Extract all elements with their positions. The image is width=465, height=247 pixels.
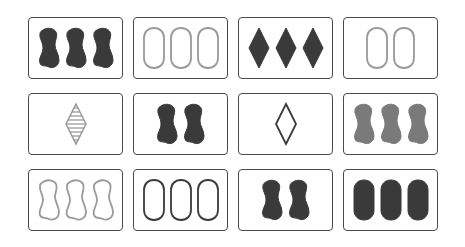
squiggle-icon — [408, 104, 427, 143]
card-symbols — [247, 26, 325, 70]
oval-icon — [171, 28, 191, 68]
card-symbols — [274, 102, 298, 146]
set-card[interactable] — [28, 17, 123, 79]
diamond-icon — [276, 104, 296, 144]
card-symbols — [37, 26, 115, 70]
card-symbols — [365, 26, 416, 70]
oval-icon — [354, 180, 374, 220]
squiggle-icon — [290, 180, 309, 219]
oval-icon — [144, 180, 164, 220]
diamond-icon — [276, 28, 296, 68]
set-card[interactable] — [238, 169, 333, 231]
diamond-icon — [303, 28, 323, 68]
set-card[interactable] — [238, 17, 333, 79]
oval-icon — [144, 28, 164, 68]
oval-icon — [381, 180, 401, 220]
squiggle-icon — [263, 180, 282, 219]
squiggle-icon — [354, 104, 373, 143]
set-card[interactable] — [133, 17, 228, 79]
card-symbols — [260, 178, 311, 222]
squiggle-icon — [93, 180, 112, 219]
squiggle-icon — [93, 28, 112, 67]
squiggle-icon — [381, 104, 400, 143]
squiggle-icon — [66, 28, 85, 67]
squiggle-icon — [66, 180, 85, 219]
squiggle-icon — [39, 180, 58, 219]
oval-icon — [394, 28, 414, 68]
oval-icon — [367, 28, 387, 68]
squiggle-icon — [158, 104, 177, 143]
oval-icon — [198, 28, 218, 68]
set-card[interactable] — [133, 169, 228, 231]
set-card[interactable] — [133, 93, 228, 155]
squiggle-icon — [185, 104, 204, 143]
set-card[interactable] — [343, 17, 438, 79]
set-card[interactable] — [238, 93, 333, 155]
card-symbols — [142, 178, 220, 222]
card-symbols — [142, 26, 220, 70]
oval-icon — [408, 180, 428, 220]
card-symbols — [64, 102, 88, 146]
game-board — [0, 0, 465, 247]
squiggle-icon — [39, 28, 58, 67]
card-symbols — [155, 102, 206, 146]
set-card[interactable] — [28, 93, 123, 155]
card-symbols — [352, 178, 430, 222]
set-card[interactable] — [343, 169, 438, 231]
set-card[interactable] — [343, 93, 438, 155]
set-card[interactable] — [28, 169, 123, 231]
oval-icon — [171, 180, 191, 220]
card-symbols — [352, 102, 430, 146]
oval-icon — [198, 180, 218, 220]
diamond-icon — [66, 104, 86, 144]
card-symbols — [37, 178, 115, 222]
diamond-icon — [249, 28, 269, 68]
